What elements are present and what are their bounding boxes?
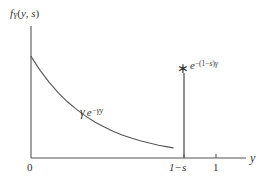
curve-annotation-gamma: γ	[80, 105, 85, 119]
exponential-density-curve	[31, 56, 173, 147]
x-tick-label-0: 0	[27, 162, 33, 173]
x-tick-label-one: 1	[213, 162, 219, 173]
x-tick-label-one-minus-s: 1−s	[169, 162, 186, 173]
y-axis-label: fY(y, s)	[10, 8, 39, 20]
point-mass-asterisk-marker: ∗	[177, 62, 189, 76]
atom-annotation-exponent: −(1−s)γ	[195, 59, 218, 68]
curve-annotation-exponent: −γy	[92, 106, 103, 115]
plot-canvas	[0, 0, 271, 184]
point-mass-annotation: e−(1−s)γ	[190, 60, 218, 71]
density-figure: fY(y, s) γe−γy ∗ e−(1−s)γ 0 1−s 1 y	[0, 0, 271, 184]
atom-exponent-open: −(1−	[195, 59, 210, 68]
x-axis-label: y	[250, 152, 255, 164]
y-axis-label-close-paren: )	[36, 7, 40, 19]
curve-annotation: γe−γy	[80, 106, 103, 118]
atom-exponent-gamma: γ	[215, 59, 218, 68]
